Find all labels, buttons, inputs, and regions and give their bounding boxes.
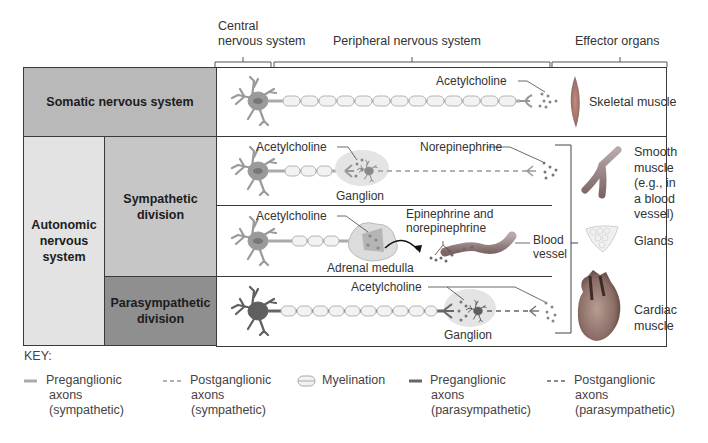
smooth-line2: muscle [634, 161, 677, 177]
cardiac-line1: Cardiac [634, 303, 677, 319]
label-para-ach: Acetylcholine [351, 280, 422, 294]
key-item-line: (sympathetic) [46, 403, 124, 418]
smooth-line3: (e.g., in [634, 176, 677, 192]
key-item-post-symp: Postganglionic axons (sympathetic) [190, 373, 271, 418]
key-item-line: Preganglionic [430, 373, 531, 388]
skeletal-muscle-icon [571, 76, 580, 128]
smooth-muscle-icon [585, 150, 618, 195]
key-item-line: Preganglionic [46, 373, 124, 388]
effector-glands: Glands [634, 234, 674, 248]
key-item-line: axons [430, 388, 531, 403]
label-epi-norepi: Epinephrine and norepinephrine [406, 207, 493, 235]
label-epi-line2: norepinephrine [406, 221, 493, 235]
blood-vessel-shape [445, 236, 512, 252]
label-norepinephrine: Norepinephrine [420, 140, 502, 154]
key-item-line: axons [46, 388, 124, 403]
smooth-line4: a blood [634, 192, 677, 208]
key-item-line: (parasympathetic) [574, 403, 675, 418]
cardiac-line2: muscle [634, 319, 677, 335]
cardiac-muscle-icon [578, 270, 620, 341]
label-blood-vessel: Blood vessel [533, 233, 567, 261]
label-blood-line1: Blood [533, 233, 567, 247]
key-item-line: Postganglionic [574, 373, 675, 388]
key-item-line: (parasympathetic) [430, 403, 531, 418]
effector-cardiac: Cardiac muscle [634, 303, 677, 334]
label-somatic-ach: Acetylcholine [436, 74, 507, 88]
effector-smooth: Smooth muscle (e.g., in a blood vessel) [634, 145, 677, 223]
ganglion-para [444, 289, 496, 327]
key-item-line: axons [190, 388, 271, 403]
label-symp-ach: Acetylcholine [256, 140, 327, 154]
header-brackets [215, 57, 667, 67]
label-adrenal-medulla: Adrenal medulla [327, 261, 414, 275]
key-item-myelination: Myelination [322, 373, 385, 388]
key-symbol-myelination [298, 376, 315, 386]
key-title: KEY: [24, 349, 52, 364]
label-symp-ganglion: Ganglion [336, 189, 384, 203]
label-adrenal-ach: Acetylcholine [256, 209, 327, 223]
key-item-line: (sympathetic) [190, 403, 271, 418]
key-item-line: axons [574, 388, 675, 403]
key-item-post-para: Postganglionic axons (parasympathetic) [574, 373, 675, 418]
label-para-ganglion: Ganglion [444, 328, 492, 342]
smooth-line1: Smooth [634, 145, 677, 161]
smooth-line5: vessel) [634, 207, 677, 223]
effector-skeletal: Skeletal muscle [589, 95, 677, 109]
label-blood-line2: vessel [533, 247, 567, 261]
key-item-line: Postganglionic [190, 373, 271, 388]
key-item-pre-para: Preganglionic axons (parasympathetic) [430, 373, 531, 418]
key-item-pre-symp: Preganglionic axons (sympathetic) [46, 373, 124, 418]
label-epi-line1: Epinephrine and [406, 207, 493, 221]
key-item-line: Myelination [322, 373, 385, 388]
